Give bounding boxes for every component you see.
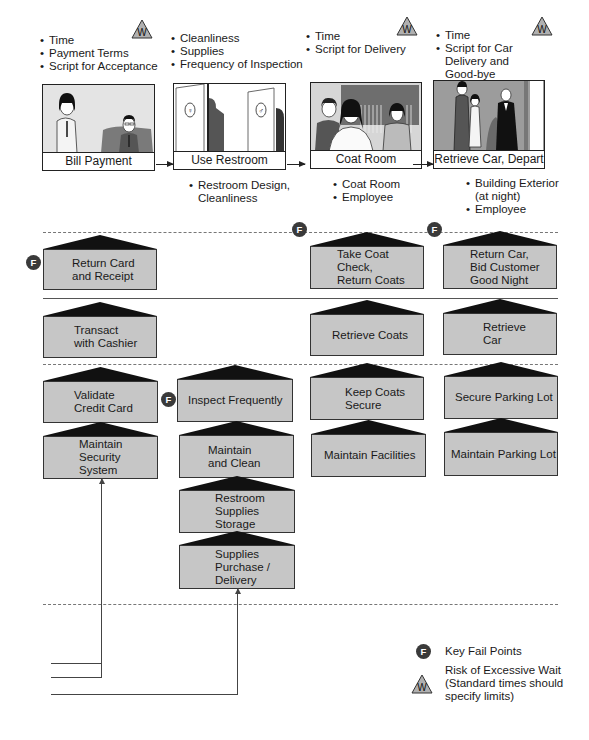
connector-to-supplies-purchase xyxy=(237,589,238,694)
svg-text:W: W xyxy=(537,24,547,35)
flow-arrow xyxy=(413,164,433,165)
restroom-illustration: ♀ ♂ xyxy=(174,84,285,152)
customer-step-coat-room: Coat Room xyxy=(310,82,422,169)
standards-bill-payment: Time Payment Terms Script for Acceptance xyxy=(40,34,158,73)
support-restroom-supplies-storage: Restroom Supplies Storage xyxy=(179,476,295,533)
roof-shape xyxy=(444,362,558,376)
roof-shape xyxy=(179,531,295,545)
node-label: Return Car, Bid Customer Good Night xyxy=(470,248,540,287)
roof-shape xyxy=(310,363,424,377)
connector-to-security-system xyxy=(101,479,102,677)
connector-horizontal xyxy=(51,694,238,695)
node-label: Take Coat Check, Return Coats xyxy=(337,248,405,287)
roof-shape xyxy=(443,299,557,313)
standard-item: Script for Acceptance xyxy=(40,60,158,73)
standard-item: Script for Car xyxy=(436,42,513,55)
node-label: Maintain and Clean xyxy=(208,444,260,470)
flow-arrow xyxy=(287,164,305,165)
node-label: Maintain Security System xyxy=(79,438,122,477)
roof-shape xyxy=(179,421,294,435)
support-inspect-frequently: Inspect Frequently xyxy=(177,365,293,422)
support-maintain-security-system: Maintain Security System xyxy=(43,422,158,479)
legend-wait-risk-icon: W xyxy=(411,674,433,694)
legend-wait-line: (Standard times should xyxy=(445,677,563,690)
standard-item: Frequency of Inspection xyxy=(171,58,303,71)
roof-shape xyxy=(43,367,158,381)
retrieve-car-illustration xyxy=(434,81,544,151)
svg-text:W: W xyxy=(137,27,147,38)
node-label: Keep Coats Secure xyxy=(345,386,405,412)
roof-shape xyxy=(310,300,424,314)
evidence-item: Cleanliness xyxy=(189,192,290,205)
customer-step-retrieve-car: Retrieve Car, Depart xyxy=(433,80,545,169)
step-label: Coat Room xyxy=(311,150,421,168)
standard-item: Time xyxy=(306,30,406,43)
support-secure-parking-lot: Secure Parking Lot xyxy=(444,362,558,419)
evidence-item: Employee xyxy=(333,191,400,204)
svg-text:W: W xyxy=(402,24,412,35)
flow-arrow xyxy=(156,164,173,165)
connector-horizontal xyxy=(51,663,102,664)
roof-shape xyxy=(43,235,157,249)
legend-wait-line: specify limits) xyxy=(445,690,563,703)
standard-item: Time xyxy=(436,29,513,42)
roof-shape xyxy=(43,422,158,436)
wait-risk-icon: W xyxy=(396,16,418,36)
evidence-item: Restroom Design, xyxy=(189,179,290,192)
step-label: Retrieve Car, Depart xyxy=(434,150,544,168)
step-label: Use Restroom xyxy=(174,151,285,169)
support-maintain-and-clean: Maintain and Clean xyxy=(179,421,294,478)
step-label: Bill Payment xyxy=(43,152,154,170)
standards-use-restroom: Cleanliness Supplies Frequency of Inspec… xyxy=(171,32,303,71)
roof-shape xyxy=(444,418,558,432)
node-label: Inspect Frequently xyxy=(188,394,283,407)
legend-fail-point-icon: F xyxy=(416,644,431,659)
legend-wait-risk-label: Risk of Excessive Wait (Standard times s… xyxy=(445,664,563,703)
connector-horizontal xyxy=(51,677,102,678)
backstage-retrieve-coats: Retrieve Coats xyxy=(310,300,424,356)
roof-shape xyxy=(443,231,557,245)
node-label: Restroom Supplies Storage xyxy=(215,492,265,531)
backstage-retrieve-car: Retrieve Car xyxy=(443,299,557,355)
svg-text:W: W xyxy=(417,682,427,693)
node-label: Validate Credit Card xyxy=(74,389,133,415)
node-label: Return Card and Receipt xyxy=(72,257,135,283)
customer-step-use-restroom: ♀ ♂ Use Restroom xyxy=(173,83,286,170)
node-label: Retrieve Coats xyxy=(332,329,408,342)
standard-item: Supplies xyxy=(171,45,303,58)
svg-text:♀: ♀ xyxy=(187,107,192,114)
fail-point-icon: F xyxy=(26,255,41,270)
support-maintain-facilities: Maintain Facilities xyxy=(311,420,426,477)
line-of-implementation xyxy=(43,604,558,605)
coat-room-illustration xyxy=(311,83,421,151)
evidence-item: Building Exterior xyxy=(466,177,559,190)
backstage-transact-cashier: Transact with Cashier xyxy=(43,302,157,358)
fail-point-icon: F xyxy=(292,222,307,237)
support-validate-credit-card: Validate Credit Card xyxy=(43,367,158,423)
svg-text:♂: ♂ xyxy=(258,107,263,114)
evidence-coat-room: Coat Room Employee xyxy=(333,178,400,204)
node-label: Secure Parking Lot xyxy=(455,391,553,404)
evidence-use-restroom: Restroom Design, Cleanliness xyxy=(189,179,290,205)
customer-step-bill-payment: Bill Payment xyxy=(42,84,155,171)
roof-shape xyxy=(311,420,426,434)
standards-retrieve-car: Time Script for Car Delivery and Good-by… xyxy=(436,29,513,81)
roof-shape xyxy=(177,365,293,379)
onstage-take-coat-check: Take Coat Check, Return Coats xyxy=(310,232,424,289)
wait-risk-icon: W xyxy=(531,16,553,36)
onstage-return-car: Return Car, Bid Customer Good Night xyxy=(443,231,557,289)
support-keep-coats-secure: Keep Coats Secure xyxy=(310,363,424,420)
evidence-item: (at night) xyxy=(466,190,559,203)
standards-coat-room: Time Script for Delivery xyxy=(306,30,406,56)
onstage-return-card: Return Card and Receipt xyxy=(43,235,157,290)
standard-item: Payment Terms xyxy=(40,47,158,60)
bill-payment-illustration xyxy=(43,85,154,153)
legend-fail-point-label: Key Fail Points xyxy=(445,645,522,658)
support-supplies-purchase-delivery: Supplies Purchase / Delivery xyxy=(179,531,295,589)
legend-wait-line: Risk of Excessive Wait xyxy=(445,664,563,677)
node-label: Supplies Purchase / Delivery xyxy=(215,548,270,587)
roof-shape xyxy=(179,476,295,490)
standard-item: Delivery and xyxy=(436,55,513,68)
evidence-item: Employee xyxy=(466,203,559,216)
roof-shape xyxy=(310,232,424,246)
